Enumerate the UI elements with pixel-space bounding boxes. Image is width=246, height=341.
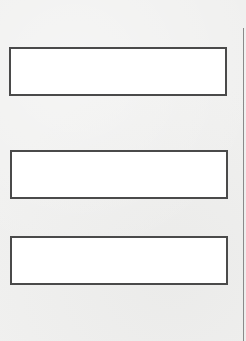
paper-background (0, 0, 246, 341)
blank-box-1 (9, 47, 227, 96)
page-edge-line (243, 28, 244, 341)
blank-box-2 (10, 150, 228, 199)
blank-box-3 (10, 236, 228, 285)
